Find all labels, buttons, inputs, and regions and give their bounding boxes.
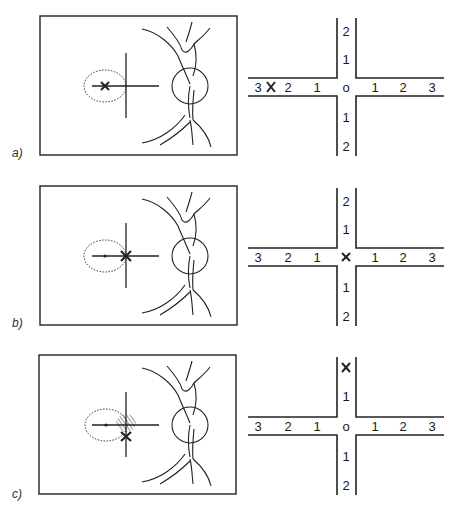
panel-a: 3 2 1 o 1 2 3 2 1 1 2 a) [0, 0, 456, 170]
svg-text:1: 1 [371, 250, 378, 265]
svg-text:2: 2 [284, 419, 291, 434]
svg-text:2: 2 [399, 250, 406, 265]
svg-text:3: 3 [254, 80, 261, 95]
svg-text:1: 1 [371, 80, 378, 95]
panel-b-drawing: 3 2 1 1 2 3 2 1 1 2 [0, 170, 456, 340]
panel-c-drawing: 3 2 1 o 1 2 3 1 1 2 [0, 340, 456, 511]
grid-marker-x-icon [342, 253, 350, 261]
svg-text:2: 2 [342, 194, 349, 209]
svg-text:2: 2 [399, 80, 406, 95]
panel-label: c) [12, 487, 22, 501]
svg-text:1: 1 [313, 250, 320, 265]
svg-text:1: 1 [342, 52, 349, 67]
visual-field-grid: 3 2 1 o 1 2 3 2 1 1 2 [248, 18, 444, 156]
panel-c: 3 2 1 o 1 2 3 1 1 2 c) [0, 340, 456, 510]
svg-text:3: 3 [428, 419, 435, 434]
panel-a-drawing: 3 2 1 o 1 2 3 2 1 1 2 [0, 0, 456, 170]
visual-field-grid: 3 2 1 o 1 2 3 1 1 2 [248, 357, 444, 495]
panel-label: a) [12, 146, 23, 160]
svg-text:1: 1 [371, 419, 378, 434]
grid-marker-x-icon [267, 82, 275, 92]
svg-text:2: 2 [284, 80, 291, 95]
svg-text:3: 3 [254, 419, 261, 434]
fundus-box [40, 16, 237, 155]
svg-text:o: o [342, 80, 349, 95]
panel-label: b) [12, 316, 23, 330]
svg-text:2: 2 [284, 250, 291, 265]
svg-text:3: 3 [254, 250, 261, 265]
visual-field-grid: 3 2 1 1 2 3 2 1 1 2 [248, 188, 444, 326]
svg-text:2: 2 [342, 24, 349, 39]
grid-marker-x-icon [342, 363, 350, 372]
svg-text:3: 3 [428, 250, 435, 265]
svg-text:2: 2 [342, 478, 349, 493]
svg-text:1: 1 [313, 80, 320, 95]
svg-text:o: o [342, 419, 349, 434]
fundus-box [39, 355, 236, 494]
optic-disc [142, 192, 211, 317]
svg-text:2: 2 [342, 139, 349, 154]
svg-text:2: 2 [399, 419, 406, 434]
optic-disc [142, 22, 211, 147]
svg-text:1: 1 [342, 110, 349, 125]
fundus-box [40, 186, 237, 325]
svg-text:1: 1 [342, 280, 349, 295]
svg-text:3: 3 [428, 80, 435, 95]
svg-text:1: 1 [342, 222, 349, 237]
svg-text:1: 1 [342, 449, 349, 464]
optic-disc [142, 361, 211, 486]
svg-text:1: 1 [313, 419, 320, 434]
svg-text:1: 1 [342, 389, 349, 404]
panel-b: 3 2 1 1 2 3 2 1 1 2 b) [0, 170, 456, 340]
svg-text:2: 2 [342, 309, 349, 324]
